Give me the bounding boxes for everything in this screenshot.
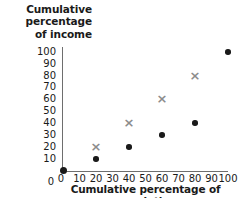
x-axis-line bbox=[63, 171, 228, 172]
x-axis-title: Cumulative percentage of population bbox=[52, 183, 239, 198]
y-tick-label: 30 bbox=[30, 130, 56, 140]
data-point-cross: × bbox=[90, 141, 102, 153]
data-point-cross: × bbox=[123, 117, 135, 129]
y-tick-label: 90 bbox=[30, 59, 56, 69]
y-tick-label: 80 bbox=[30, 71, 56, 81]
data-point-cross: × bbox=[189, 70, 201, 82]
plot-area: 1009080706050403020100 01020304050607080… bbox=[0, 0, 239, 198]
scatter-chart: Cumulative percentage of income 10090807… bbox=[0, 0, 239, 198]
y-tick-label: 100 bbox=[30, 47, 56, 57]
data-point-dot bbox=[225, 49, 231, 55]
y-tick-label: 60 bbox=[30, 94, 56, 104]
data-point-dot bbox=[192, 120, 198, 126]
y-tick-label: 70 bbox=[30, 82, 56, 92]
data-point-dot bbox=[159, 132, 165, 138]
y-tick-label: 40 bbox=[30, 118, 56, 128]
data-point-dot bbox=[126, 144, 132, 150]
y-tick-label: 20 bbox=[30, 142, 56, 152]
y-tick-label: 10 bbox=[30, 154, 56, 164]
data-point-cross: × bbox=[156, 93, 168, 105]
y-axis-line bbox=[62, 47, 63, 171]
y-tick-label: 50 bbox=[30, 106, 56, 116]
data-point-dot bbox=[93, 156, 99, 162]
